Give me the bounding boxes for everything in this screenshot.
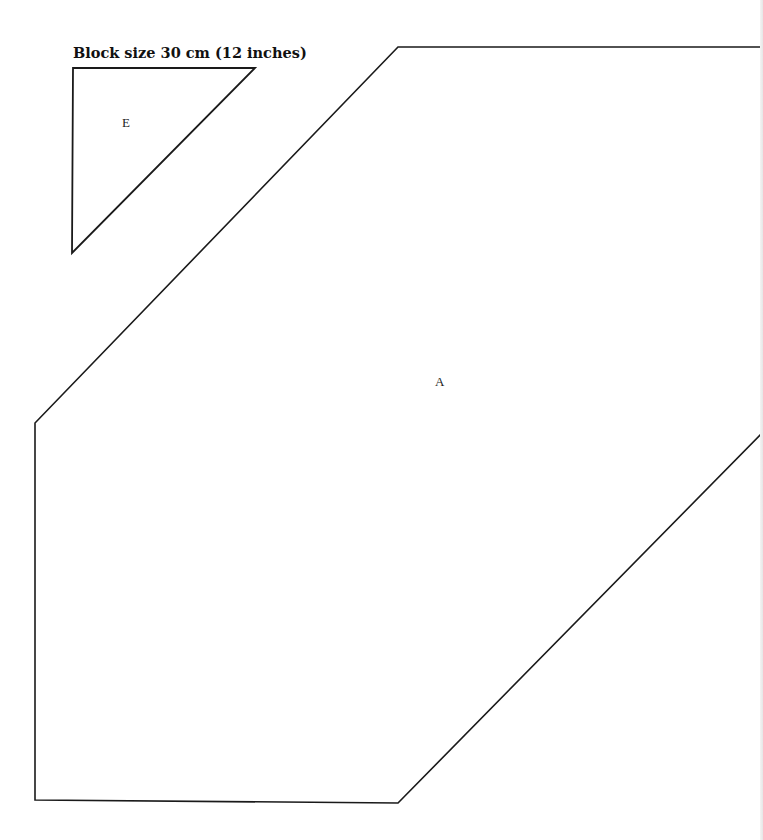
piece-a-label: A (435, 374, 444, 390)
pattern-piece-e (72, 68, 255, 253)
piece-e-label: E (122, 115, 130, 131)
pattern-pieces (0, 0, 763, 840)
pattern-piece-a (35, 47, 763, 803)
